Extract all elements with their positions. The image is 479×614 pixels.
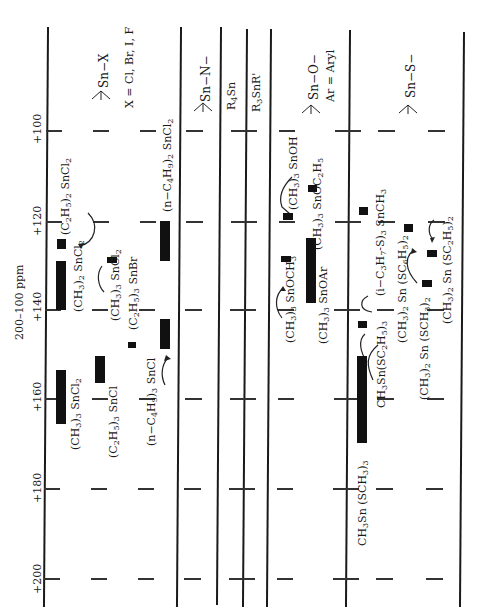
range-bar-bu3sncl bbox=[160, 319, 170, 349]
label-bu3sncl: (n−C4H9)3 SnCl bbox=[146, 358, 161, 446]
range-bar-et2sncl2 bbox=[57, 239, 66, 249]
label-et3snbr: (C2H5)3 SnBr bbox=[128, 257, 143, 330]
range-bar-me3snoh bbox=[283, 213, 293, 220]
range-bar-me2sn-sme bbox=[422, 280, 432, 287]
label-me3snoet: (CH3)3 SnOC2H5 bbox=[312, 158, 327, 250]
label-et3sncl: (C2H5)3 SnCl bbox=[108, 386, 123, 458]
range-bar-me2sn-sph bbox=[404, 224, 413, 232]
label-me3sncl2b: (CH3)3 SnCl2 bbox=[110, 249, 125, 321]
label-me2sn-sme: (CH3)2 Sn (SCH3)2 bbox=[419, 297, 434, 400]
range-bar-mesn-sme bbox=[357, 356, 367, 443]
range-bar-bu2sncl2 bbox=[160, 221, 170, 261]
range-bar-me3sncl2 bbox=[56, 370, 66, 424]
label-bu2sncl2: (n−C4H9)2 SnCl2 bbox=[162, 119, 177, 212]
label-ipr-s: (i−C3H7-S)3 SnCH3 bbox=[375, 189, 390, 296]
range-bar-et3snbr bbox=[128, 342, 136, 348]
label-me2sn-set: (CH3)2 Sn (SC2H5)2 bbox=[442, 216, 457, 324]
range-bar-me2sn-set bbox=[427, 250, 437, 257]
label-me2sn-sph: (CH3)2 Sn (SC6H5)2 bbox=[397, 235, 412, 343]
range-bar-mesn-set bbox=[358, 321, 367, 328]
label-me3snome: (CH3)3 SnOCH3 bbox=[285, 256, 300, 343]
range-bar-me2sncl2 bbox=[56, 261, 66, 310]
label-me3snoar: (CH3)3 SnOAr bbox=[318, 267, 333, 344]
label-mesn-set: CH3Sn(SC2H5)3 bbox=[376, 321, 391, 408]
label-mesn-sme: CH3Sn (SCH3)3 bbox=[357, 460, 372, 546]
label-me3sncl2: (CH3)3 SnCl2 bbox=[70, 378, 85, 450]
label-et2sncl2: (C2H5)2 SnCl2 bbox=[60, 158, 75, 235]
range-bar-et3sncl bbox=[95, 356, 105, 383]
label-me3snoh: (CH3)3 SnOH bbox=[288, 136, 303, 210]
range-bar-ipr-s bbox=[359, 207, 368, 215]
label-me2sncl2: (CH3)2 SnCl2 bbox=[73, 240, 88, 312]
